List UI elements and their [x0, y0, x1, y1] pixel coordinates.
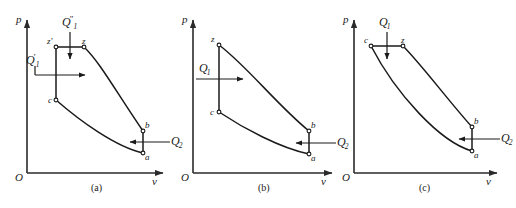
- panel-a-x-axis-label: v: [152, 176, 157, 187]
- panel-b-caption: (b): [258, 182, 270, 193]
- panel-c-point-c: [369, 44, 373, 48]
- panel-a-y-axis-label: p: [16, 14, 22, 25]
- panel-b-q2-sub: 2: [345, 142, 349, 151]
- panel-a-q1-double-prime-label: Q″1: [62, 16, 78, 28]
- panel-a-label-c: c: [48, 96, 52, 105]
- panel-a-q1-double-prime-sub: 1: [73, 22, 77, 31]
- panel-a-label-b: b: [145, 121, 150, 130]
- panel-c-label-z: z: [401, 36, 405, 45]
- panel-c-label-b: b: [474, 117, 479, 126]
- panel-b-origin-label: O: [181, 172, 189, 183]
- panel-b-point-z: [217, 43, 221, 47]
- panel-c-label-a: a: [474, 151, 479, 160]
- panel-b-q1-sub: 1: [207, 68, 211, 77]
- panel-b-label-a: a: [311, 154, 316, 163]
- panel-a-label-z: z: [82, 37, 86, 46]
- panel-c-caption: (c): [419, 182, 430, 193]
- panel-b-process-z-to-b: [219, 45, 309, 131]
- figure-root: p v O z' z c b a Q″1 Q′1 Q2 (a) p v O z …: [0, 0, 516, 208]
- panel-b-point-c: [217, 110, 221, 114]
- panel-a-q2-sub: 2: [179, 141, 183, 150]
- panel-b-label-z: z: [211, 35, 215, 44]
- panel-c-q2-sub: 2: [509, 138, 513, 147]
- panel-c-label-c: c: [364, 36, 368, 45]
- panel-b-x-axis-label: v: [321, 176, 326, 187]
- panel-a-point-zprime: [54, 45, 58, 49]
- panel-c-process-z-to-b: [403, 46, 472, 127]
- panel-c-process-a-to-c: [371, 46, 472, 151]
- panel-a-point-c: [54, 98, 58, 102]
- panel-a-origin-label: O: [15, 172, 23, 183]
- panel-a-label-a: a: [145, 153, 150, 162]
- panel-a-process-z-to-b: [84, 47, 143, 131]
- panel-b-label-c: c: [210, 108, 214, 117]
- diagram-canvas: [0, 0, 516, 208]
- panel-a-label-z-prime: z': [47, 37, 52, 46]
- panel-c-origin-label: O: [342, 172, 350, 183]
- panel-c-q2-label: Q2: [501, 132, 513, 144]
- panel-a-q1-prime-sub: 1: [36, 60, 40, 69]
- panel-b-q2-label: Q2: [337, 136, 349, 148]
- panel-a-q2-label: Q2: [171, 135, 183, 147]
- panel-a-process-a-to-c: [56, 100, 143, 153]
- panel-a-q1-prime-label: Q′1: [26, 54, 40, 66]
- panel-a-caption: (a): [91, 182, 102, 193]
- panel-c-y-axis-label: p: [343, 14, 349, 25]
- panel-b-label-b: b: [311, 121, 316, 130]
- panel-b-y-axis-label: p: [182, 14, 188, 25]
- panel-b-q1-label: Q1: [199, 62, 211, 74]
- panel-c-x-axis-label: v: [486, 176, 491, 187]
- panel-c-q1-sub: 1: [387, 22, 391, 31]
- panel-c-q1-label: Q1: [379, 16, 391, 28]
